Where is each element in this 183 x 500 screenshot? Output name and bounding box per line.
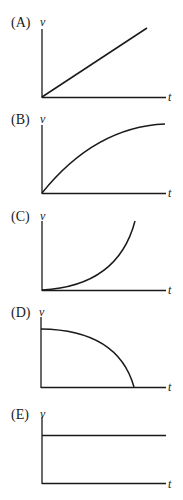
y-axis-label: v	[40, 210, 45, 222]
graph-b: (B) v t	[0, 100, 183, 200]
velocity-curve	[41, 329, 134, 387]
x-axis-label: t	[168, 187, 171, 199]
graph-c: (C) v t	[0, 200, 183, 300]
x-axis-label: t	[168, 478, 171, 490]
y-axis-label: v	[40, 16, 45, 28]
option-label: (A)	[11, 16, 30, 30]
y-axis-label: v	[39, 306, 44, 318]
y-axis-label: v	[40, 408, 45, 420]
option-label: (E)	[11, 408, 29, 422]
graph-a: (A) v t	[0, 0, 183, 100]
option-label: (D)	[11, 306, 30, 320]
graph-d: (D) v t	[0, 300, 183, 395]
option-label: (B)	[11, 113, 30, 127]
x-axis-label: t	[168, 284, 171, 296]
y-axis-label: v	[40, 113, 45, 125]
velocity-curve	[42, 28, 147, 97]
option-label: (C)	[11, 210, 30, 224]
velocity-curve	[42, 124, 165, 193]
graph-e: (E) v t	[0, 395, 183, 500]
velocity-curve	[42, 221, 135, 290]
x-axis-label: t	[168, 381, 171, 393]
